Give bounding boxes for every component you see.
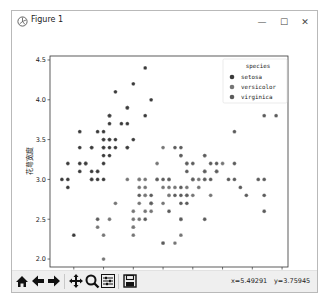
data-point-setosa: [120, 122, 124, 126]
data-point-setosa: [102, 162, 106, 166]
data-point-setosa: [108, 122, 112, 126]
data-point-versicolor: [221, 162, 225, 166]
legend-marker-virginica: [230, 95, 235, 100]
data-point-setosa: [143, 114, 147, 118]
cursor-x-coordinate: x=5.49291: [231, 277, 267, 285]
data-point-versicolor: [149, 209, 153, 213]
data-point-versicolor: [125, 178, 129, 182]
data-point-virginica: [179, 193, 183, 197]
data-point-versicolor: [173, 241, 177, 245]
data-point-virginica: [173, 193, 177, 197]
data-point-virginica: [209, 178, 213, 182]
forward-icon[interactable]: [46, 273, 62, 289]
data-point-setosa: [90, 178, 94, 182]
data-point-virginica: [143, 217, 147, 221]
data-point-virginica: [191, 162, 195, 166]
data-point-versicolor: [102, 233, 106, 237]
data-point-versicolor: [161, 146, 165, 150]
data-point-versicolor: [96, 225, 100, 229]
data-point-virginica: [161, 178, 165, 182]
title-bar[interactable]: Figure 1 — ☐ ✕: [12, 11, 317, 33]
data-point-setosa: [102, 130, 106, 134]
data-point-virginica: [167, 178, 171, 182]
configure-subplots-icon[interactable]: [100, 273, 116, 289]
data-point-setosa: [66, 185, 70, 189]
data-point-virginica: [185, 193, 189, 197]
data-point-versicolor: [137, 217, 141, 221]
data-point-setosa: [90, 170, 94, 174]
data-point-setosa: [72, 233, 76, 237]
save-icon[interactable]: [122, 273, 138, 289]
data-point-virginica: [215, 162, 219, 166]
data-point-virginica: [203, 217, 207, 221]
data-point-setosa: [108, 114, 112, 118]
data-point-virginica: [256, 178, 260, 182]
data-point-versicolor: [143, 209, 147, 213]
legend-title: species: [246, 63, 270, 70]
data-point-versicolor: [161, 185, 165, 189]
data-point-versicolor: [143, 193, 147, 197]
y-tick-label: 2.0: [36, 255, 46, 263]
data-point-virginica: [233, 178, 237, 182]
legend-label-virginica: virginica: [241, 94, 272, 101]
data-point-virginica: [191, 178, 195, 182]
matplotlib-logo-icon: [17, 16, 28, 27]
maximize-button[interactable]: ☐: [274, 14, 294, 30]
data-point-setosa: [78, 170, 82, 174]
y-tick-label: 4.5: [36, 56, 46, 64]
data-point-virginica: [262, 178, 266, 182]
data-point-versicolor: [137, 201, 141, 205]
minimize-button[interactable]: —: [252, 14, 272, 30]
data-point-versicolor: [173, 185, 177, 189]
data-point-versicolor: [197, 178, 201, 182]
data-point-virginica: [137, 193, 141, 197]
data-point-setosa: [114, 90, 118, 94]
data-point-setosa: [78, 146, 82, 150]
data-point-setosa: [131, 138, 135, 142]
legend-marker-versicolor: [230, 85, 235, 90]
pan-icon[interactable]: [68, 273, 84, 289]
data-point-versicolor: [143, 178, 147, 182]
back-icon[interactable]: [30, 273, 46, 289]
data-point-setosa: [125, 122, 129, 126]
y-tick-label: 4.0: [36, 96, 46, 104]
data-point-setosa: [114, 138, 118, 142]
data-point-versicolor: [161, 201, 165, 205]
data-point-setosa: [125, 106, 129, 110]
data-point-setosa: [108, 154, 112, 158]
cursor-y-coordinate: y=3.75945: [274, 277, 310, 285]
home-icon[interactable]: [14, 273, 30, 289]
data-point-virginica: [262, 114, 266, 118]
data-point-versicolor: [143, 185, 147, 189]
data-point-setosa: [90, 146, 94, 150]
data-point-versicolor: [209, 193, 213, 197]
data-point-setosa: [108, 138, 112, 142]
data-point-versicolor: [131, 225, 135, 229]
data-point-versicolor: [191, 193, 195, 197]
data-point-setosa: [96, 130, 100, 134]
data-point-setosa: [102, 154, 106, 158]
data-point-setosa: [96, 178, 100, 182]
data-point-setosa: [149, 98, 153, 102]
data-point-virginica: [233, 162, 237, 166]
data-point-virginica: [179, 154, 183, 158]
scatter-plot[interactable]: 4.55.05.56.06.57.07.58.02.02.53.03.54.04…: [12, 33, 317, 273]
data-point-virginica: [161, 241, 165, 245]
data-point-versicolor: [185, 185, 189, 189]
data-point-versicolor: [197, 185, 201, 189]
zoom-icon[interactable]: [84, 273, 100, 289]
data-point-virginica: [274, 114, 278, 118]
data-point-versicolor: [179, 233, 183, 237]
data-point-versicolor: [137, 185, 141, 189]
data-point-virginica: [167, 209, 171, 213]
data-point-virginica: [179, 185, 183, 189]
close-button[interactable]: ✕: [295, 14, 315, 30]
data-point-versicolor: [167, 185, 171, 189]
figure-window: Figure 1 — ☐ ✕ 4.55.05.56.06.57.07.58.02…: [11, 10, 318, 293]
data-point-virginica: [149, 193, 153, 197]
legend-label-versicolor: versicolor: [241, 84, 276, 90]
legend-marker-setosa: [230, 75, 235, 80]
data-point-virginica: [233, 130, 237, 134]
data-point-setosa: [60, 178, 64, 182]
data-point-versicolor: [102, 257, 106, 261]
